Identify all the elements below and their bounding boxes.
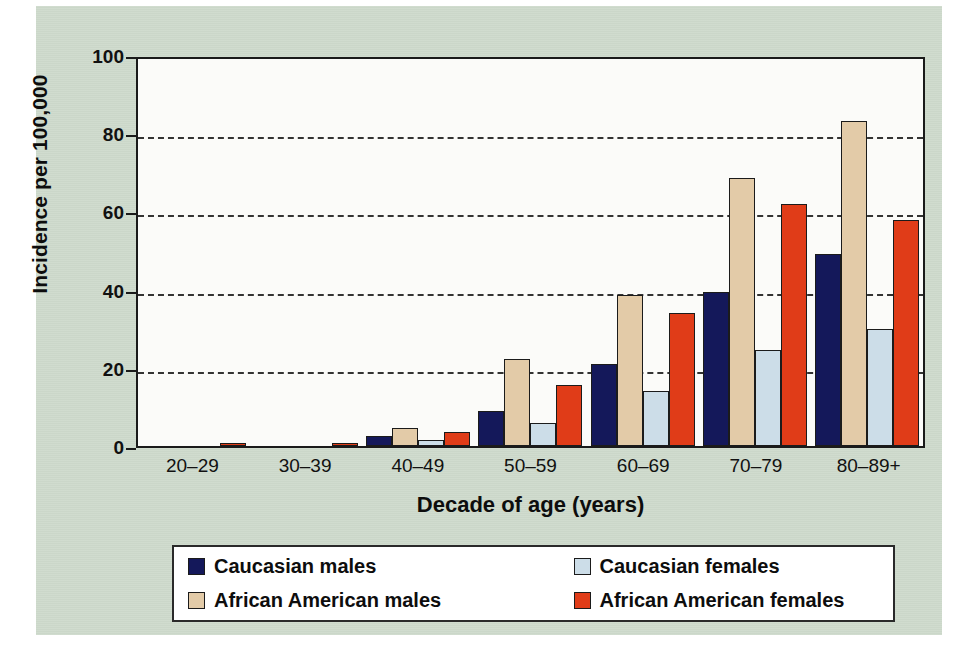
x-tick-label: 20–29 [136,455,249,487]
plot-area [136,57,925,448]
y-tick-label-60: 60 [103,202,124,224]
y-tick-20 [126,370,136,372]
legend-item: Caucasian males [188,555,534,578]
legend-item: Caucasian females [534,555,880,578]
bar [530,423,556,446]
bar [841,121,867,446]
x-tick-label: 70–79 [700,455,813,487]
y-tick-label-0: 0 [113,437,124,459]
y-tick-label-20: 20 [103,359,124,381]
bar [220,443,246,446]
legend-swatch-icon [188,592,205,609]
chart-figure: Incidence per 100,000 020406080100 20–29… [0,0,978,667]
legend-swatch-icon [574,558,591,575]
y-tick-0 [126,448,136,450]
y-tick-40 [126,292,136,294]
bar [669,313,695,446]
y-tick-100 [126,57,136,59]
legend-label: Caucasian males [214,555,376,578]
bar [556,385,582,446]
bar [755,350,781,446]
bar [444,432,470,446]
bar [781,204,807,446]
x-axis-title: Decade of age (years) [136,492,925,518]
bar [418,440,444,446]
bar [366,436,392,446]
bar [617,295,643,446]
bar-group-60-69 [587,59,699,446]
legend-item: African American females [534,589,880,612]
bar [867,329,893,446]
bar-group-80-89+ [811,59,923,446]
y-tick-60 [126,213,136,215]
bar [478,411,504,446]
legend-label: Caucasian females [600,555,780,578]
bar [703,292,729,446]
x-tick-label: 30–39 [249,455,362,487]
bar-series-container [138,59,923,446]
bar [332,443,358,446]
bar [815,254,841,446]
bar-group-40-49 [362,59,474,446]
bar [893,220,919,446]
legend-swatch-icon [188,558,205,575]
bar-group-20-29 [138,59,250,446]
bar [392,428,418,446]
bar-group-50-59 [474,59,586,446]
y-axis-tick-labels: 020406080100 [78,57,124,448]
y-tick-label-40: 40 [103,281,124,303]
x-tick-label: 40–49 [361,455,474,487]
bar [729,178,755,446]
x-tick-label: 50–59 [474,455,587,487]
legend-label: African American males [214,589,441,612]
bar-group-30-39 [250,59,362,446]
bar [643,391,669,446]
bar [591,364,617,446]
legend-label: African American females [600,589,845,612]
y-tick-label-80: 80 [103,124,124,146]
y-tick-80 [126,135,136,137]
x-axis-tick-labels: 20–2930–3940–4950–5960–6970–7980–89+ [136,455,925,487]
x-tick-label: 60–69 [587,455,700,487]
x-tick-label: 80–89+ [812,455,925,487]
chart-legend: Caucasian malesCaucasian femalesAfrican … [172,545,895,622]
legend-item: African American males [188,589,534,612]
legend-swatch-icon [574,592,591,609]
y-tick-label-100: 100 [92,46,124,68]
bar [504,359,530,446]
bar-group-70-79 [699,59,811,446]
